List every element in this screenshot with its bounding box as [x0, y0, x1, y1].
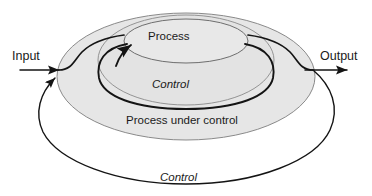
output-label: Output: [320, 50, 358, 63]
control-inner-label: Control: [152, 79, 189, 91]
process-under-control-label: Process under control: [126, 115, 238, 127]
process-control-diagram: Input Output Process Control Process und…: [0, 0, 372, 196]
input-label: Input: [12, 50, 40, 63]
process-label: Process: [148, 31, 190, 43]
control-outer-label: Control: [160, 172, 197, 184]
